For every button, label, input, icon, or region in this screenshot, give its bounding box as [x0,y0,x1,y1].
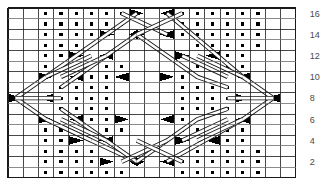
chart-cell [266,8,281,19]
purl-dot-symbol [59,139,62,142]
chart-cell [144,114,159,125]
chart-cell [114,103,129,114]
knitting-chart-svg: 161412108642 [0,0,329,189]
purl-dot-symbol [44,139,47,142]
chart-cell [160,103,175,114]
chart-cell [38,103,53,114]
purl-dot-symbol [105,107,108,110]
purl-dot-symbol [59,12,62,15]
purl-dot-symbol [44,160,47,163]
chart-cell [38,82,53,93]
purl-dot-symbol [211,44,214,47]
purl-dot-symbol [256,22,259,25]
chart-cell [281,82,296,93]
chart-cell [250,61,265,72]
purl-dot-symbol [75,107,78,110]
chart-cell [8,114,23,125]
chart-cell [266,125,281,136]
chart-cell [281,135,296,146]
purl-dot-symbol [59,22,62,25]
purl-dot-symbol [181,97,184,100]
chart-cell [235,82,250,93]
chart-cell [8,8,23,19]
chart-cell [129,167,144,178]
chart-cell [8,125,23,136]
chart-cell [8,72,23,83]
purl-dot-symbol [105,12,108,15]
chart-cell [144,50,159,61]
chart-cell [23,114,38,125]
purl-dot-symbol [90,22,93,25]
purl-dot-symbol [90,33,93,36]
chart-cell [144,125,159,136]
purl-dot-symbol [181,171,184,174]
purl-dot-symbol [59,171,62,174]
purl-dot-symbol [44,12,47,15]
chart-cell [8,19,23,30]
chart-cell [129,103,144,114]
purl-dot-symbol [241,22,244,25]
chart-cell [8,82,23,93]
purl-dot-symbol [196,171,199,174]
purl-dot-symbol [75,150,78,153]
chart-cell [266,29,281,40]
purl-dot-symbol [256,12,259,15]
chart-cell [8,50,23,61]
chart-cell [129,82,144,93]
purl-dot-symbol [75,12,78,15]
chart-cell [114,50,129,61]
purl-dot-symbol [75,22,78,25]
chart-cell [281,29,296,40]
chart-cell [144,82,159,93]
purl-dot-symbol [75,86,78,89]
chart-cell [266,72,281,83]
purl-dot-symbol [196,97,199,100]
chart-cell [281,114,296,125]
chart-cell [250,114,265,125]
purl-dot-symbol [196,86,199,89]
purl-dot-symbol [211,107,214,110]
chart-cell [160,93,175,104]
purl-dot-symbol [44,150,47,153]
chart-cell [23,29,38,40]
purl-dot-symbol [211,12,214,15]
chart-cell [160,167,175,178]
purl-dot-symbol [196,12,199,15]
purl-dot-symbol [256,160,259,163]
chart-cell [114,93,129,104]
purl-dot-symbol [75,33,78,36]
chart-cell [281,19,296,30]
chart-cell [23,40,38,51]
purl-dot-symbol [181,107,184,110]
purl-dot-symbol [59,160,62,163]
row-number-label: 14 [310,30,320,40]
chart-cell [8,156,23,167]
purl-dot-symbol [105,75,108,78]
purl-dot-symbol [211,86,214,89]
chart-cell [281,167,296,178]
purl-dot-symbol [44,171,47,174]
chart-cell [8,135,23,146]
chart-cell [160,40,175,51]
purl-dot-symbol [59,33,62,36]
chart-cell [281,125,296,136]
chart-cell [23,156,38,167]
chart-cell [281,72,296,83]
chart-cell [266,167,281,178]
purl-dot-symbol [241,150,244,153]
purl-dot-symbol [256,171,259,174]
purl-dot-symbol [226,12,229,15]
row-number-label: 12 [310,51,320,61]
purl-dot-symbol [241,65,244,68]
purl-dot-symbol [196,22,199,25]
purl-dot-symbol [226,54,229,57]
chart-cell [281,50,296,61]
purl-dot-symbol [211,171,214,174]
purl-dot-symbol [211,22,214,25]
chart-cell [250,125,265,136]
chart-cell [23,135,38,146]
row-number-label: 16 [310,9,320,19]
chart-cell [129,72,144,83]
chart-cell [266,19,281,30]
chart-cell [144,8,159,19]
